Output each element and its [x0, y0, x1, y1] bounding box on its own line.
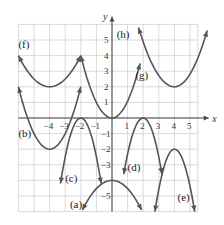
curve-label-g: (g) — [135, 69, 148, 82]
x-tick-label: 2 — [140, 121, 145, 131]
y-axis-label: y — [102, 11, 108, 22]
y-tick-label: 4 — [104, 51, 109, 61]
curve-label-b: (b) — [18, 127, 31, 140]
x-tick-label: 1 — [125, 121, 130, 131]
curve-label-a: (a) — [70, 198, 83, 211]
x-tick-label: 5 — [187, 121, 192, 131]
curve-label-f: (f) — [18, 38, 29, 51]
y-tick-label: 1 — [104, 97, 109, 107]
arrowhead-icon — [122, 168, 127, 174]
arrowhead-icon — [203, 31, 208, 37]
x-tick-label: −4 — [44, 121, 54, 131]
arrowhead-icon — [138, 28, 143, 35]
curve-label-h: (h) — [117, 28, 130, 41]
curve-h — [139, 28, 208, 87]
y-tick-label: −1 — [101, 129, 111, 139]
x-tick-label: −1 — [90, 121, 100, 131]
x-axis-arrow-icon — [204, 116, 209, 121]
y-tick-label: −5 — [101, 191, 111, 201]
y-tick-label: −2 — [101, 144, 111, 154]
y-tick-label: 5 — [104, 35, 109, 45]
x-tick-label: 4 — [171, 121, 176, 131]
y-tick-label: 3 — [104, 66, 109, 76]
curve-label-c: (c) — [65, 172, 78, 185]
y-tick-label: −3 — [101, 160, 111, 170]
y-axis-arrow-icon — [110, 17, 115, 22]
curve-label-e: (e) — [178, 191, 191, 204]
graph-canvas: xy −4−3−2−112345−5−3−2−112345 (a)(b)(c)(… — [0, 0, 224, 225]
y-tick-label: 2 — [104, 82, 109, 92]
curves — [17, 28, 208, 212]
x-tick-label: 3 — [156, 121, 161, 131]
curve-label-d: (d) — [128, 161, 141, 174]
arrowhead-icon — [191, 205, 196, 211]
x-axis-label: x — [211, 113, 217, 124]
